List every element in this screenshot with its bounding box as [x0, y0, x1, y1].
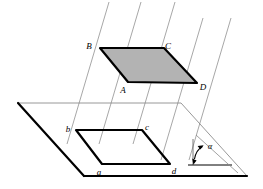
angle-arc-arrow-icon: [195, 147, 203, 160]
vertex-label-C: C: [165, 41, 172, 51]
base-plane-edge-left: [18, 103, 84, 176]
vertex-label-c: c: [145, 122, 149, 132]
vertex-label-D: D: [199, 82, 207, 92]
vertex-label-b: b: [66, 124, 71, 134]
angle-arrow-head-icon: [198, 145, 204, 149]
projection-diagram-canvas: B C D A b c d a α: [0, 0, 263, 189]
angle-ray-line: [196, 135, 238, 173]
vertex-label-d: d: [172, 166, 177, 176]
inclination-angle-alpha: [188, 135, 238, 173]
vertex-label-B: B: [86, 41, 92, 51]
vertex-label-a: a: [97, 167, 102, 177]
angle-label-alpha: α: [208, 141, 213, 151]
projection-ray-5: [189, 18, 231, 160]
vertex-label-A: A: [119, 85, 126, 95]
projection-ray-4: [161, 18, 203, 160]
projection-ray-1: [67, 2, 109, 144]
geometry-figure: B C D A b c d a α: [0, 0, 263, 189]
projected-parallelogram-abcd: [76, 130, 170, 164]
shaded-parallelogram-ABCD: [100, 48, 197, 83]
